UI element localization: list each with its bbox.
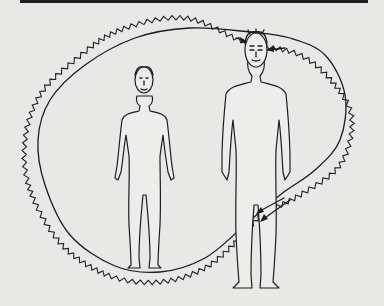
small-figure-head	[135, 67, 153, 93]
small-figure	[115, 67, 174, 268]
document-page	[0, 0, 384, 306]
large-figure-body	[222, 60, 290, 288]
large-figure-head	[245, 33, 267, 67]
large-figure	[222, 29, 290, 288]
small-figure-body	[115, 96, 174, 268]
illustration	[0, 0, 384, 306]
wavy-loop	[22, 16, 354, 285]
smooth-loop	[38, 28, 346, 273]
